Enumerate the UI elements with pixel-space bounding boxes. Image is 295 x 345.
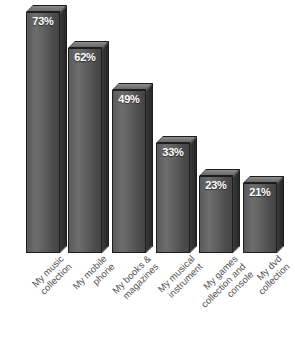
bar-top-face bbox=[26, 5, 67, 12]
bar-3[interactable]: 49% bbox=[112, 90, 146, 253]
bar-top-face bbox=[68, 41, 109, 48]
bar-side-face bbox=[277, 176, 284, 253]
bar-1[interactable]: 73% bbox=[26, 12, 60, 253]
bar-5[interactable]: 23% bbox=[199, 176, 233, 253]
bar-front-face bbox=[26, 12, 60, 253]
bar-2[interactable]: 62% bbox=[68, 48, 102, 253]
bar-value-label: 21% bbox=[243, 186, 277, 198]
bar-top-face bbox=[199, 169, 240, 176]
bar-value-label: 49% bbox=[112, 93, 146, 105]
bar-value-label: 23% bbox=[199, 179, 233, 191]
bar-side-face bbox=[146, 83, 153, 253]
bar-front-face bbox=[156, 143, 190, 253]
category-axis-labels: My musiccollectionMy mobilephoneMy books… bbox=[0, 253, 295, 345]
bar-side-face bbox=[233, 169, 240, 253]
bar-value-label: 33% bbox=[156, 146, 190, 158]
bar-side-face bbox=[60, 5, 67, 253]
bar-top-face bbox=[156, 136, 197, 143]
bar-value-label: 73% bbox=[26, 15, 60, 27]
bar-top-face bbox=[112, 83, 153, 90]
bar-value-label: 62% bbox=[68, 51, 102, 63]
bar-chart: 73%62%49%33%23%21% My musiccollectionMy … bbox=[0, 0, 295, 345]
bar-6[interactable]: 21% bbox=[243, 183, 277, 253]
bar-top-face bbox=[243, 176, 284, 183]
bar-front-face bbox=[68, 48, 102, 253]
bar-4[interactable]: 33% bbox=[156, 143, 190, 253]
plot-area: 73%62%49%33%23%21% bbox=[0, 0, 295, 253]
bar-side-face bbox=[190, 136, 197, 253]
bar-side-face bbox=[102, 41, 109, 253]
bar-front-face bbox=[112, 90, 146, 253]
